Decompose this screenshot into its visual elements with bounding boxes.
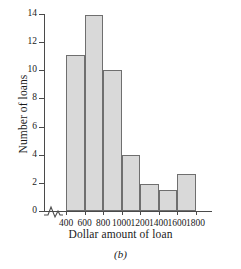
bar-600-800 (85, 15, 104, 211)
x-tick-1600 (177, 211, 178, 215)
x-tick-400 (66, 211, 67, 215)
y-tick-label-14: 14 (28, 7, 38, 19)
y-tick-12: 12 (39, 42, 44, 43)
x-tick-1800 (196, 211, 197, 215)
y-tick-10: 10 (39, 70, 44, 71)
y-tick-label-2: 2 (32, 176, 37, 188)
x-tick-1400 (159, 211, 160, 215)
y-tick-label-0: 0 (32, 204, 37, 216)
figure-caption: (b) (0, 248, 241, 260)
bar-1600-1800 (177, 174, 196, 211)
y-axis-line (44, 14, 45, 211)
x-axis-title: Dollar amount of loan (0, 228, 241, 240)
y-axis-title: Number of loans (17, 39, 29, 189)
histogram-figure: Number of loans 0 2 4 6 8 10 12 14 (0, 0, 241, 269)
bar-800-1000 (103, 70, 122, 211)
y-tick-label-10: 10 (28, 63, 38, 75)
x-axis-line (44, 211, 212, 212)
bar-1000-1200 (122, 155, 141, 211)
plot-area: 0 2 4 6 8 10 12 14 (44, 14, 212, 211)
x-tick-800 (103, 211, 104, 215)
y-tick-6: 6 (39, 127, 44, 128)
y-tick-8: 8 (39, 98, 44, 99)
bar-400-600 (66, 55, 85, 211)
y-tick-label-4: 4 (32, 148, 37, 160)
y-tick-14: 14 (39, 14, 44, 15)
y-tick-label-8: 8 (32, 91, 37, 103)
bar-1400-1600 (159, 190, 178, 211)
x-tick-600 (85, 211, 86, 215)
y-tick-4: 4 (39, 155, 44, 156)
bar-1200-1400 (140, 184, 159, 211)
y-tick-2: 2 (39, 183, 44, 184)
y-tick-label-12: 12 (28, 35, 38, 47)
y-tick-label-6: 6 (32, 120, 37, 132)
x-tick-1200 (140, 211, 141, 215)
x-tick-1000 (122, 211, 123, 215)
